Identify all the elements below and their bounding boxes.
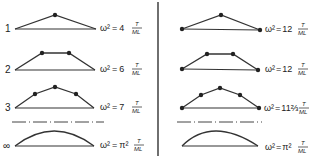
end-mass-bead	[180, 67, 184, 71]
left-row-infinity: ∞ ω²=π² T ML	[3, 131, 144, 152]
right-row-3: ω²=11⅔ T ML	[180, 86, 309, 115]
right-panel: ω²=12 T ML ω²=12 T ML	[177, 13, 309, 154]
svg-text:ω²=π²: ω²=π²	[265, 142, 292, 152]
left-panel: 1 ω²=4 T ML 2 ω²=6 T ML	[3, 13, 144, 152]
row-label: 3	[5, 102, 11, 113]
frequency-equation: ω²=π² T ML	[265, 140, 308, 154]
row-label: 2	[5, 64, 11, 75]
svg-text:ω²=11⅔: ω²=11⅔	[264, 103, 299, 113]
svg-text:ω²=6: ω²=6	[100, 64, 124, 74]
frequency-equation: ω²=6 T ML	[100, 62, 142, 76]
end-mass-bead	[180, 106, 184, 110]
frequency-equation: ω²=4 T ML	[100, 21, 142, 35]
svg-text:T: T	[301, 22, 306, 28]
end-mass-bead	[257, 106, 261, 110]
svg-text:T: T	[135, 62, 140, 68]
mass-bead	[74, 92, 78, 96]
svg-text:ω²=π²: ω²=π²	[100, 140, 129, 150]
frequency-equation: ω²=12 T ML	[265, 62, 308, 76]
string-shape	[182, 15, 260, 30]
frequency-equation: ω²=π² T ML	[100, 138, 144, 152]
mass-bead	[231, 52, 235, 56]
right-row-1: ω²=12 T ML	[180, 13, 308, 36]
mass-bead	[67, 51, 71, 55]
string-shape	[15, 87, 94, 108]
string-shape	[15, 53, 95, 70]
svg-text:ω²=7: ω²=7	[100, 102, 124, 112]
frequency-equation: ω²=7 T ML	[100, 100, 142, 114]
string-shape	[182, 54, 258, 70]
svg-text:ω²=4: ω²=4	[100, 23, 124, 33]
end-mass-bead	[256, 68, 260, 72]
mass-bead	[33, 92, 37, 96]
svg-text:ω²=12: ω²=12	[265, 24, 292, 34]
svg-text:ML: ML	[132, 70, 140, 76]
svg-text:ML: ML	[132, 29, 140, 35]
svg-text:T: T	[135, 21, 140, 27]
row-label: 1	[5, 23, 11, 34]
end-mass-bead	[258, 28, 262, 32]
right-row-2: ω²=12 T ML	[180, 52, 308, 76]
continuous-string-arc	[15, 131, 94, 146]
svg-text:T: T	[302, 101, 307, 107]
mass-bead	[199, 93, 203, 97]
svg-text:ML: ML	[132, 108, 140, 114]
mass-bead	[219, 13, 223, 17]
mass-bead	[40, 51, 44, 55]
left-row-2: 2 ω²=6 T ML	[5, 51, 142, 76]
left-row-3: 3 ω²=7 T ML	[5, 85, 142, 114]
mass-bead	[53, 13, 57, 17]
frequency-equation: ω²=12 T ML	[265, 22, 308, 36]
string-shape	[182, 88, 259, 108]
continuous-string-arc	[182, 131, 258, 146]
svg-text:ML: ML	[134, 146, 142, 152]
beaded-string-modes-diagram: 1 ω²=4 T ML 2 ω²=6 T ML	[0, 0, 313, 158]
mass-bead	[53, 85, 57, 89]
row-label: ∞	[3, 140, 10, 151]
mass-bead	[218, 86, 222, 90]
svg-text:T: T	[137, 138, 142, 144]
mass-bead	[205, 52, 209, 56]
end-mass-bead	[180, 27, 184, 31]
right-row-infinity: ω²=π² T ML	[182, 131, 308, 154]
frequency-equation: ω²=11⅔ T ML	[264, 101, 309, 115]
svg-text:ML: ML	[298, 70, 306, 76]
mass-bead	[238, 93, 242, 97]
svg-text:ML: ML	[299, 109, 307, 115]
svg-text:ω²=12: ω²=12	[265, 64, 292, 74]
svg-text:ML: ML	[298, 30, 306, 36]
svg-text:T: T	[135, 100, 140, 106]
string-baseline	[182, 29, 260, 30]
left-row-1: 1 ω²=4 T ML	[5, 13, 142, 35]
svg-text:ML: ML	[298, 148, 306, 154]
svg-text:T: T	[301, 140, 306, 146]
string-baseline	[182, 69, 258, 70]
svg-text:T: T	[301, 62, 306, 68]
